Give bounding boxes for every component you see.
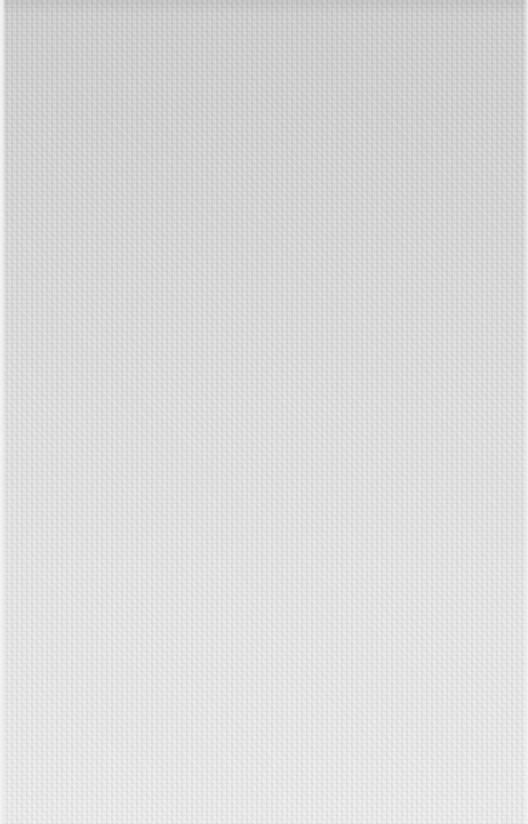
left-paper-edge [0, 0, 5, 824]
blank-paper-surface [0, 0, 528, 824]
right-paper-edge [524, 0, 528, 824]
paper-texture [0, 0, 528, 824]
top-shading [0, 0, 528, 14]
